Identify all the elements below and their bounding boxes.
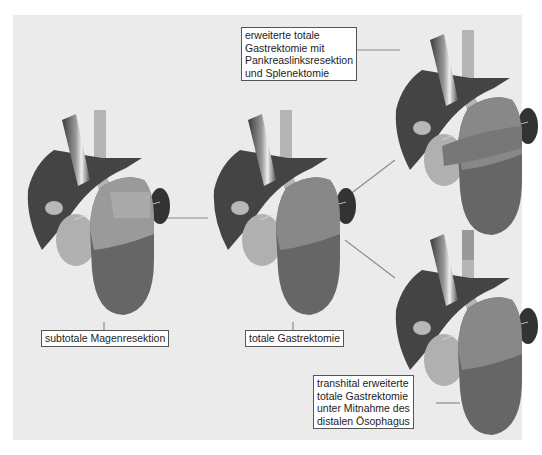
label-line: erweiterte totale [245, 29, 353, 42]
label-transhiatal-gastrectomy: transhital erweiterte totale Gastrektomi… [313, 375, 414, 429]
label-line: und Splenektomie [245, 67, 353, 80]
label-line: unter Mitnahme des [317, 402, 410, 415]
figure-extended-gastrectomy [382, 30, 542, 245]
label-line: Gastrektomie mit [245, 42, 353, 55]
label-line: transhital erweiterte [317, 377, 410, 390]
label-extended-gastrectomy: erweiterte totale Gastrektomie mit Pankr… [241, 27, 357, 81]
figure-total-gastrectomy [200, 110, 360, 325]
distal-esophagus-resected [462, 230, 474, 260]
figure-subtotal-resection [14, 110, 174, 325]
label-line: distalen Ösophagus [317, 415, 410, 428]
label-line: totale Gastrektomie [317, 390, 410, 403]
label-total-gastrectomy: totale Gastrektomie [245, 330, 344, 347]
label-subtotal-resection: subtotale Magenresektion [41, 330, 169, 347]
label-line: Pankreaslinksresektion [245, 54, 353, 67]
